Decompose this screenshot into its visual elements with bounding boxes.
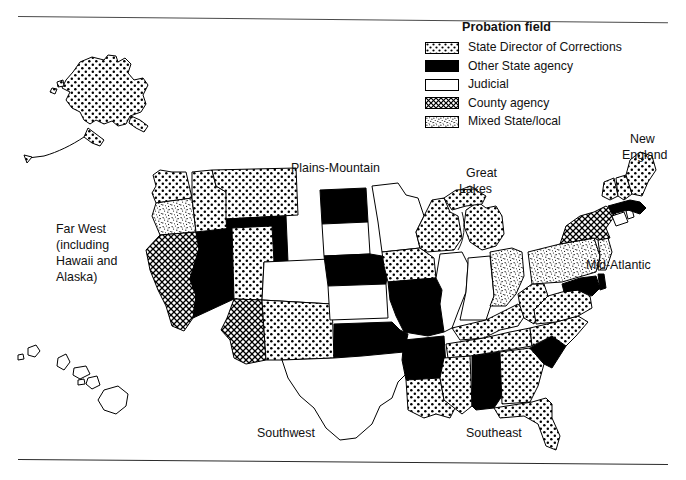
region-label-great-lakes: Great Lakes (459, 166, 500, 196)
state-AL[interactable] (472, 352, 502, 410)
state-HI[interactable] (18, 345, 128, 414)
region-label-plains-mountain: Plains-Mountain (291, 161, 380, 175)
state-AK-panhandle (129, 116, 148, 132)
region-label-southwest: Southwest (257, 426, 315, 440)
state-NY[interactable] (560, 206, 616, 244)
state-AZ[interactable] (221, 299, 266, 364)
us-map: Far West (including Hawaii and Alaska) P… (0, 0, 686, 480)
state-AK-island-a (57, 80, 64, 87)
state-AK-aleutian-tip (24, 155, 32, 163)
region-label-far-west: Far West (including Hawaii and Alaska) (56, 222, 121, 284)
figure-panel: Probation field State Director of Correc… (0, 0, 686, 480)
state-IA[interactable] (382, 248, 436, 282)
state-shapes (18, 55, 656, 450)
state-SD[interactable] (322, 222, 370, 256)
state-VT[interactable] (602, 178, 618, 200)
state-WA[interactable] (152, 170, 192, 203)
state-AK-island-b (50, 88, 57, 94)
state-ND[interactable] (320, 188, 368, 224)
state-MI[interactable] (464, 202, 504, 250)
state-OR[interactable] (152, 198, 196, 235)
state-NM[interactable] (262, 300, 334, 360)
region-label-mid-atlantic: Mid-Atlantic (586, 258, 651, 272)
state-AK[interactable] (62, 55, 148, 126)
state-KS[interactable] (328, 284, 388, 320)
state-FL[interactable] (494, 398, 560, 450)
region-label-southeast: Southeast (466, 426, 522, 440)
state-AR[interactable] (402, 336, 446, 380)
state-AK-aleutians (84, 128, 104, 146)
state-AK-aleutian-tail (28, 137, 84, 158)
state-MN[interactable] (372, 183, 424, 252)
region-label-new-england: New England (622, 132, 668, 162)
state-DE[interactable] (598, 274, 606, 290)
state-NE[interactable] (324, 254, 388, 286)
state-CO[interactable] (262, 259, 332, 304)
